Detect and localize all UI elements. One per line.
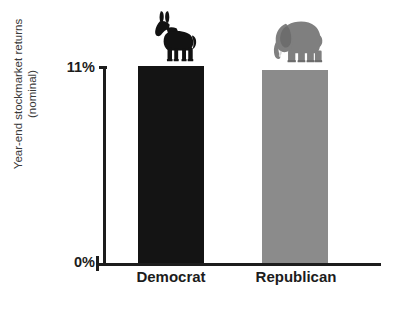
y-axis-label-line-1: Year-end stockmarket returns <box>12 19 26 169</box>
bar-republican <box>262 70 328 263</box>
y-axis-label: Year-end stockmarket returns (nominal) <box>10 0 42 189</box>
x-axis-label-republican: Republican <box>236 268 356 285</box>
y-axis-tick-mark-zero <box>96 256 99 271</box>
donkey-icon <box>144 8 200 64</box>
y-axis-tick-top: 11% <box>33 59 95 75</box>
x-axis-line <box>96 263 381 266</box>
bar-democrat <box>138 66 204 263</box>
y-axis-tick-zero: 0% <box>33 254 95 270</box>
x-axis-label-democrat: Democrat <box>118 268 224 285</box>
y-axis-tick-mark-top <box>99 66 107 69</box>
chart-title <box>120 0 320 1</box>
elephant-icon <box>266 8 328 64</box>
y-axis-line <box>103 66 106 264</box>
chart-figure: Year-end stockmarket returns (nominal) 1… <box>0 0 398 309</box>
y-axis-label-line-2: (nominal) <box>26 70 40 118</box>
